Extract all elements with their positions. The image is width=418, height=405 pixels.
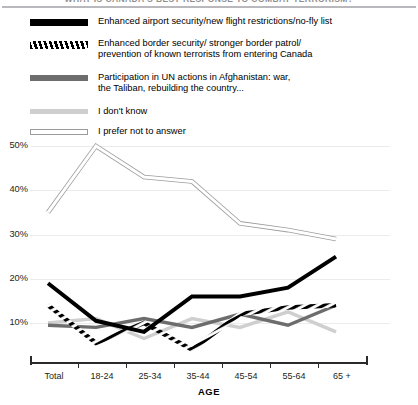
x-axis-cap-left	[30, 356, 32, 365]
x-tick-5	[270, 362, 271, 368]
series-outline	[48, 146, 336, 239]
x-tick-6	[318, 362, 319, 368]
plot-area: 50% 40% 30% 20% 10% Total 18-24 25-34 3	[0, 0, 418, 405]
x-tick-1	[78, 362, 79, 368]
series-line	[48, 146, 336, 239]
x-tick-3	[174, 362, 175, 368]
x-axis-title: AGE	[0, 386, 418, 397]
x-tick-2	[126, 362, 127, 368]
series-canvas	[0, 0, 418, 405]
x-axis-cap-right	[366, 356, 368, 365]
chart-root: WHAT IS CANADA'S BEST RESPONSE TO COMBAT…	[0, 0, 418, 405]
x-tick-4	[222, 362, 223, 368]
x-tick-label-65plus: 65 +	[314, 371, 370, 381]
